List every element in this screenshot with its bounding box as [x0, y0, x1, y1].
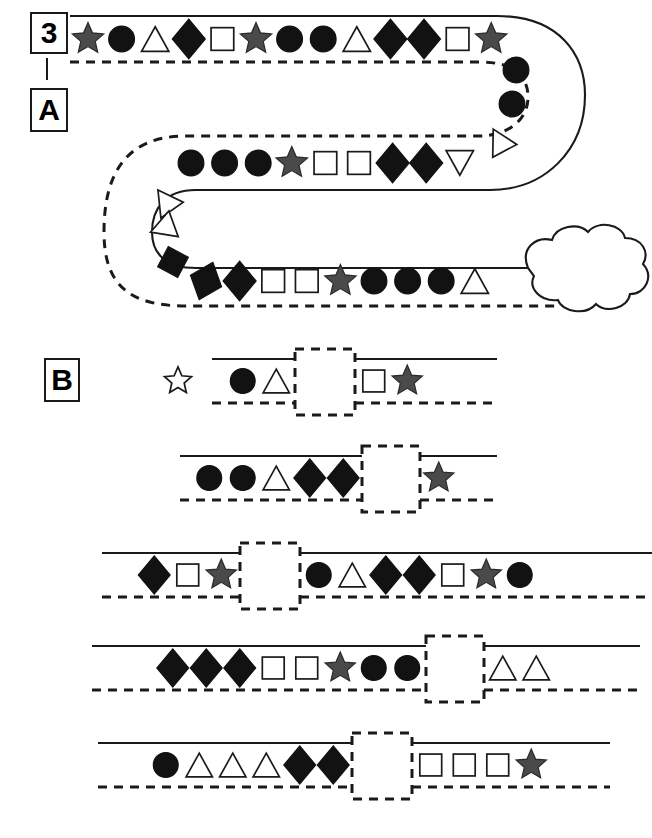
shape-circle-black: [230, 369, 255, 394]
panel-b-gap-box[interactable]: [426, 636, 484, 702]
shape-circle-black: [361, 268, 387, 294]
shape-circle-black: [503, 57, 529, 83]
shape-diamond-black: [376, 143, 409, 183]
shape-diamond-black: [190, 649, 222, 687]
shape-triangle-white: [446, 151, 473, 176]
shape-diamond-black: [172, 19, 205, 59]
shape-star-gray: [475, 22, 506, 52]
shape-square-white: [211, 28, 234, 51]
panel-b-gap-box[interactable]: [362, 446, 420, 512]
shape-triangle-white: [186, 753, 212, 777]
shape-diamond-black: [327, 459, 359, 497]
shape-diamond-black: [403, 556, 435, 594]
shape-circle-black: [361, 656, 386, 681]
shape-triangle-white: [461, 269, 488, 294]
shape-circle-black: [245, 150, 271, 176]
shape-triangle-white: [339, 563, 365, 587]
panel-b-gap-box[interactable]: [295, 349, 355, 415]
figure-canvas: [0, 0, 652, 838]
shape-triangle-white: [523, 656, 549, 680]
shape-circle-black: [277, 26, 303, 52]
label-panel-a: A: [30, 88, 68, 132]
shape-diamond-black: [224, 649, 256, 687]
shape-star-gray: [325, 652, 355, 681]
shape-square-white: [262, 270, 285, 293]
shape-square-white: [262, 657, 284, 679]
shape-square-black: [158, 247, 189, 278]
shape-diamond-black: [374, 19, 407, 59]
shape-circle-black: [306, 563, 331, 588]
shape-triangle-white: [343, 27, 370, 52]
shape-star-white: [165, 367, 192, 393]
shape-star-gray: [424, 462, 454, 491]
panel-b-gap-box[interactable]: [240, 543, 300, 609]
shape-star-gray: [276, 146, 307, 176]
shape-triangle-white: [263, 369, 289, 393]
shape-star-gray: [392, 365, 422, 394]
shape-circle-black: [428, 268, 454, 294]
label-number-3: 3: [30, 12, 68, 54]
shape-diamond-black: [317, 746, 349, 784]
shape-diamond-black: [184, 257, 229, 306]
shape-square-white: [487, 754, 509, 776]
shape-triangle-white: [263, 466, 289, 490]
shape-diamond-black: [407, 19, 440, 59]
shape-square-white: [314, 152, 337, 175]
shape-circle-black: [499, 91, 525, 117]
shape-star-gray: [240, 22, 271, 52]
shape-diamond-black: [157, 649, 189, 687]
shape-square-white: [177, 564, 199, 586]
shape-diamond-black: [370, 556, 402, 594]
label-connector-tick: [46, 58, 48, 80]
shape-triangle-white: [142, 27, 169, 52]
shape-circle-black: [109, 26, 135, 52]
shape-circle-black: [395, 656, 420, 681]
shape-circle-black: [197, 466, 222, 491]
shape-star-gray: [471, 559, 501, 588]
shape-circle-black: [178, 150, 204, 176]
label-panel-b: B: [44, 358, 80, 402]
shape-square-white: [348, 152, 371, 175]
shape-triangle-white: [490, 656, 516, 680]
shape-circle-black: [230, 466, 255, 491]
shape-diamond-black: [410, 143, 443, 183]
shape-circle-black: [212, 150, 238, 176]
shape-diamond-black: [284, 746, 316, 784]
shape-star-gray: [516, 749, 546, 778]
shape-square-white: [453, 754, 475, 776]
shape-square-white: [442, 564, 464, 586]
figure-stage: 3 A B: [0, 0, 652, 838]
shape-diamond-black: [138, 556, 170, 594]
shape-triangle-white: [253, 753, 279, 777]
panel-b-gap-box[interactable]: [352, 733, 412, 799]
shape-triangle-white: [220, 753, 246, 777]
shape-star-gray: [206, 559, 236, 588]
shape-square-white: [295, 270, 318, 293]
shape-circle-black: [507, 563, 532, 588]
shape-square-white: [363, 370, 385, 392]
shape-diamond-black: [294, 459, 326, 497]
shape-circle-black: [395, 268, 421, 294]
shape-square-white: [420, 754, 442, 776]
shape-circle-black: [310, 26, 336, 52]
shape-square-white: [446, 28, 469, 51]
shape-star-gray: [72, 22, 103, 52]
panel-a-cloud-endpoint: [526, 225, 648, 311]
shape-circle-black: [153, 753, 178, 778]
shape-triangle-white: [147, 182, 183, 218]
shape-square-white: [296, 657, 318, 679]
